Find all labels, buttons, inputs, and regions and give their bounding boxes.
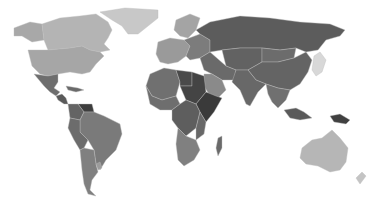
- world-map-svg: [0, 0, 384, 209]
- region-australia: [300, 130, 348, 172]
- region-indonesia: [284, 108, 312, 120]
- world-map: [0, 0, 384, 209]
- region-western-europe: [156, 38, 190, 64]
- region-usa: [28, 46, 104, 76]
- region-canada: [42, 14, 112, 52]
- region-madagascar: [216, 136, 222, 156]
- region-alaska: [14, 22, 44, 42]
- region-scandinavia: [174, 14, 200, 38]
- region-central-america: [56, 94, 68, 104]
- region-japan-korea: [312, 52, 326, 76]
- region-new-zealand: [356, 172, 366, 184]
- region-mexico: [34, 74, 60, 96]
- region-russia: [196, 16, 345, 52]
- region-papua: [330, 114, 350, 124]
- region-caribbean: [66, 86, 84, 92]
